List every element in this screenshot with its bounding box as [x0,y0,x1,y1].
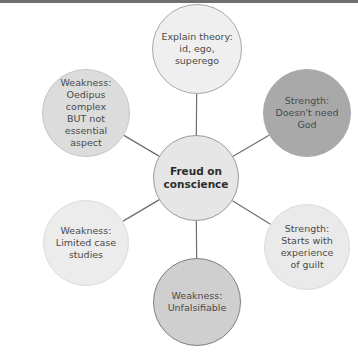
connector-bottom-right [233,201,271,225]
connector-bottom-left [123,200,159,221]
node-bottom-right: Strength: Starts with experience of guil… [264,204,350,290]
node-top-label: Explain theory: id, ego, superego [159,31,235,67]
node-top-right: Strength: Doesn't need God [263,69,351,157]
connector-top-left [124,135,159,156]
connector-top-right [233,135,269,156]
node-bottom: Weakness: Unfalsifiable [153,258,241,346]
node-center: Freud on conscience [153,135,239,221]
node-bottom-left-label: Weakness: Limited case studies [56,225,116,261]
node-center-label: Freud on conscience [164,165,229,191]
node-top-left-label: Weakness: Oedipus complex BUT not essent… [49,77,123,149]
node-top-left: Weakness: Oedipus complex BUT not essent… [42,69,130,157]
node-top: Explain theory: id, ego, superego [152,4,242,94]
node-top-right-label: Strength: Doesn't need God [270,95,344,131]
node-bottom-label: Weakness: Unfalsifiable [168,290,227,314]
node-bottom-left: Weakness: Limited case studies [43,200,129,286]
node-bottom-right-label: Strength: Starts with experience of guil… [281,223,334,271]
